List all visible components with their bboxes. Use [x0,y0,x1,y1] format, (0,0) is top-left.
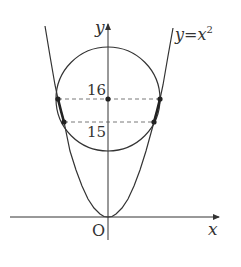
point-right-15 [151,119,156,124]
x-axis-label: x [208,219,218,239]
curve-label: y=x2 [174,24,213,44]
y-axis-label: y [94,17,105,37]
point-right-16 [157,96,162,101]
point-left-16 [55,96,60,101]
tick-label-15: 15 [87,123,106,141]
curve-label-base: y=x [174,25,206,44]
tick-label-16: 16 [87,81,106,99]
highlighted-arc-left [58,99,64,122]
point-center-16 [105,96,110,101]
point-left-15 [61,119,66,124]
origin-label: O [92,221,105,240]
curve-label-exponent: 2 [206,24,212,35]
diagram-canvas: y x O 16 15 y=x2 [0,0,241,267]
